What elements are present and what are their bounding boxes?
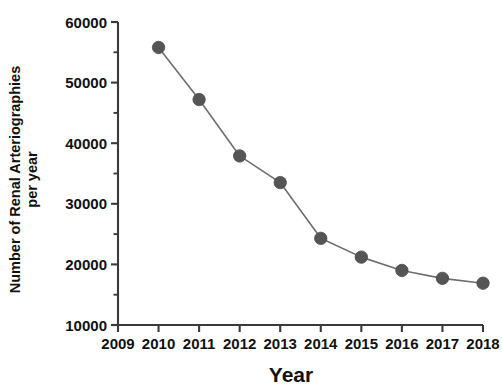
x-tick-label: 2013 bbox=[264, 335, 297, 352]
data-point-2014 bbox=[315, 232, 327, 244]
y-tick-label: 50000 bbox=[65, 74, 107, 91]
y-axis-title-line: per year bbox=[24, 151, 40, 208]
x-tick-label: 2014 bbox=[304, 335, 338, 352]
x-tick-label: 2016 bbox=[385, 335, 418, 352]
y-tick-label: 40000 bbox=[65, 135, 107, 152]
x-tick-label: 2017 bbox=[426, 335, 459, 352]
y-tick-label: 20000 bbox=[65, 256, 107, 273]
data-point-2012 bbox=[233, 150, 245, 162]
data-point-2016 bbox=[396, 264, 408, 276]
renal-arteriographies-line-chart: 100002000030000400005000060000 200920102… bbox=[0, 0, 502, 388]
data-point-2015 bbox=[355, 251, 367, 263]
x-tick-label: 2012 bbox=[223, 335, 256, 352]
data-point-2011 bbox=[193, 93, 205, 105]
y-tick-label: 30000 bbox=[65, 195, 107, 212]
x-tick-label: 2011 bbox=[183, 335, 216, 352]
y-axis-title-line: Number of Renal Arteriographies bbox=[7, 66, 23, 293]
x-tick-label: 2018 bbox=[466, 335, 499, 352]
data-point-2010 bbox=[152, 41, 164, 53]
y-tick-label: 10000 bbox=[65, 317, 107, 334]
chart-canvas: 100002000030000400005000060000 200920102… bbox=[0, 0, 502, 388]
x-axis-title-label: Year bbox=[269, 363, 313, 386]
x-tick-label: 2015 bbox=[345, 335, 378, 352]
data-point-2017 bbox=[436, 272, 448, 284]
data-point-2013 bbox=[274, 176, 286, 188]
data-point-2018 bbox=[477, 277, 489, 289]
y-tick-label: 60000 bbox=[65, 14, 107, 31]
x-tick-label: 2010 bbox=[142, 335, 175, 352]
x-tick-label: 2009 bbox=[101, 335, 134, 352]
